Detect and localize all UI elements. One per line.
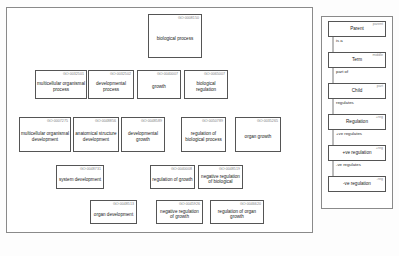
legend-node-negative-regulation[interactable]: -reg -ve regulation [328, 176, 386, 192]
go-node-regulation-of-biological-process[interactable]: GO:0050789 regulation of biological proc… [181, 117, 226, 152]
legend-edge-positive-regulates: +ve regulates [336, 131, 362, 136]
go-node-multicellular-organismal-process[interactable]: GO:0032501 multicellular organismal proc… [35, 70, 87, 99]
go-node-growth[interactable]: GO:0040007 growth [137, 70, 181, 99]
go-label: regulation of growth [151, 171, 194, 188]
legend-node-positive-regulation[interactable]: +reg +ve regulation [328, 145, 386, 161]
go-node-negative-regulation-of-growth[interactable]: GO:0045926 negative regulation of growth [156, 200, 203, 224]
legend-node-child[interactable]: part Child [328, 83, 386, 99]
go-label: developmental process [89, 76, 133, 98]
go-label: biological process [149, 20, 201, 57]
go-node-anatomical-structure-development[interactable]: GO:0048856 anatomical structure developm… [73, 117, 119, 152]
go-node-multicellular-organismal-development[interactable]: GO:0007275 multicellular organismal deve… [19, 117, 71, 152]
go-node-regulation-of-growth[interactable]: GO:0040008 regulation of growth [150, 165, 195, 189]
go-label: developmental growth [122, 123, 164, 151]
go-label: regulation of biological process [182, 123, 225, 151]
go-label: negative regulation of growth [157, 206, 202, 223]
go-label: organ development [91, 206, 136, 223]
go-node-organ-development[interactable]: GO:0048513 organ development [90, 200, 137, 224]
go-label: negative regulation of biological [199, 171, 242, 188]
go-node-developmental-process[interactable]: GO:0032502 developmental process [88, 70, 134, 99]
go-node-biological-regulation[interactable]: GO:0065007 biological regulation [184, 70, 228, 99]
go-label: biological regulation [185, 76, 227, 98]
go-label: multicellular organismal process [36, 76, 86, 98]
legend-name: Child [329, 88, 385, 94]
legend-edge-is-a: is a [336, 38, 343, 43]
go-label: multicellular organismal development [20, 123, 70, 151]
legend-edge-part-of: part of [336, 69, 348, 74]
go-label: regulation of organ growth [211, 206, 263, 223]
go-node-negative-regulation-of-biological[interactable]: GO:0048519 negative regulation of biolog… [198, 165, 243, 189]
legend-node-term[interactable]: middle Term [328, 52, 386, 68]
go-node-regulation-of-organ-growth[interactable]: GO:0046620 regulation of organ growth [210, 200, 264, 224]
go-label: anatomical structure development [74, 123, 118, 151]
legend-name: -ve regulation [329, 181, 385, 187]
legend-node-parent[interactable]: parent Parent [328, 21, 386, 37]
legend-name: +ve regulation [329, 150, 385, 156]
go-node-system-development[interactable]: GO:0048731 system development [56, 165, 104, 189]
go-node-biological-process[interactable]: GO:0008150 biological process [148, 14, 202, 58]
go-label: organ growth [236, 123, 280, 151]
legend-name: Regulation [329, 119, 385, 125]
legend-name: Term [329, 57, 385, 63]
go-label: growth [138, 76, 180, 98]
go-label: system development [57, 171, 103, 188]
legend-name: Parent [329, 26, 385, 32]
diagram-canvas: GO:0008150 biological process GO:0032501… [0, 0, 399, 256]
legend-node-regulation[interactable]: +reg Regulation [328, 114, 386, 130]
legend-edge-regulates: regulates [336, 100, 354, 105]
go-node-developmental-growth[interactable]: GO:0048589 developmental growth [121, 117, 165, 152]
go-node-organ-growth[interactable]: GO:0035265 organ growth [235, 117, 281, 152]
legend-edge-negative-regulates: -ve regulates [336, 162, 361, 167]
